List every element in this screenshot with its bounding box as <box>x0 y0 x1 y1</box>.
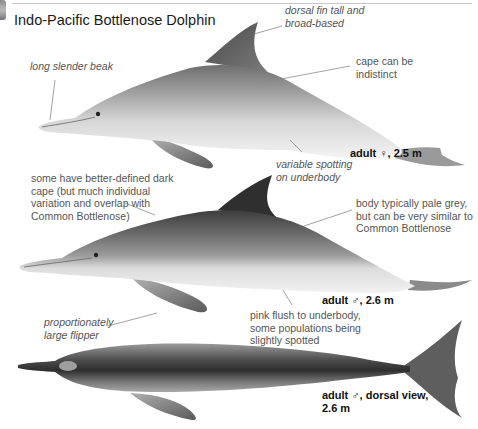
caption-adult-male: adult ♂, 2.6 m <box>322 294 394 307</box>
note-line: some populations being <box>250 322 361 335</box>
caption-text: adult ♀, 2.5 m <box>350 147 422 159</box>
body <box>38 65 402 159</box>
blowhole-region <box>59 361 77 371</box>
note-line: some have better-defined dark <box>31 172 173 185</box>
leader-flipper <box>108 313 157 326</box>
note-line: large flipper <box>44 329 113 342</box>
note-line: variation and overlap with <box>31 197 173 210</box>
note-variable-spotting: variable spotting on underbody <box>276 158 352 183</box>
note-line: but can be very similar to <box>356 210 473 223</box>
note-cape-indistinct: cape can be indistinct <box>356 55 413 80</box>
eye <box>96 112 100 116</box>
note-line: proportionately <box>44 316 113 329</box>
caption-adult-female: adult ♀, 2.5 m <box>350 147 422 160</box>
note-line: Common Bottlenose <box>356 222 473 235</box>
leader-dorsal-fin <box>254 26 282 34</box>
caption-text: adult ♂, 2.6 m <box>322 294 394 306</box>
note-line: pink flush to underbody, <box>250 309 361 322</box>
leader-long-beak <box>50 80 55 120</box>
note-line: indistinct <box>356 68 413 81</box>
note-line: on underbody <box>276 171 352 184</box>
note-line: broad-based <box>285 17 364 30</box>
caption-adult-male-dorsal: adult ♂, dorsal view, 2.6 m <box>322 389 428 414</box>
leader-body-pale <box>304 210 352 226</box>
note-dorsal-fin: dorsal fin tall and broad-based <box>285 4 364 29</box>
note-line: cape (but much individual <box>31 185 173 198</box>
note-pink-flush: pink flush to underbody, some population… <box>250 309 361 347</box>
note-long-beak: long slender beak <box>30 60 113 73</box>
note-line: Common Bottlenose) <box>31 210 173 223</box>
body <box>18 344 410 392</box>
note-line: body typically pale grey, <box>356 197 473 210</box>
leader-pink-flush <box>283 290 292 305</box>
note-line: dorsal fin tall and <box>285 4 364 17</box>
tail-fluke <box>408 280 472 291</box>
note-line: long slender beak <box>30 60 113 73</box>
eye <box>94 253 98 257</box>
note-line: cape can be <box>356 55 413 68</box>
caption-text: 2.6 m <box>322 402 428 415</box>
note-line: variable spotting <box>276 158 352 171</box>
dorsal-fin <box>205 22 268 72</box>
note-dark-cape: some have better-defined dark cape (but … <box>31 172 173 222</box>
caption-text: adult ♂, dorsal view, <box>322 389 428 402</box>
note-line: slightly spotted <box>250 334 361 347</box>
note-large-flipper: proportionately large flipper <box>44 316 113 341</box>
note-body-pale: body typically pale grey, but can be ver… <box>356 197 473 235</box>
flipper <box>130 393 196 420</box>
